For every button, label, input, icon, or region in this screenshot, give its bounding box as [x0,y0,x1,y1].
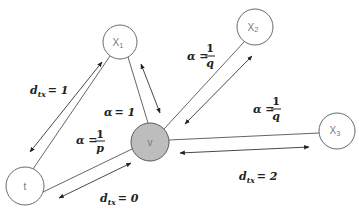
label-alpha-1: α= 1 [104,106,135,119]
label-alpha-1-over-p: α = 1 p [76,128,105,155]
label-d-tx-0: dtx= 0 [100,192,139,207]
arrow-v-x3 [180,147,309,153]
arrow-x1-v [141,64,160,113]
node-x2: X2 [237,9,273,45]
node-x1: X1 [103,25,137,59]
svg-text:q: q [206,57,214,70]
svg-text:q: q [272,110,280,123]
node-v-label: v [148,137,153,148]
label-alpha-1-over-q-x3: α = 1 q [253,95,281,123]
svg-text:p: p [96,142,104,155]
svg-text:dtx= 2: dtx= 2 [239,170,278,185]
node2vec-walk-diagram: t v X1 X2 X3 dtx= 1 α= 1 α = 1 p dtx= 0 … [0,0,359,214]
svg-text:1: 1 [96,128,104,141]
edge-t-v [43,149,132,192]
label-d-tx-1: dtx= 1 [30,84,68,99]
label-d-tx-2: dtx= 2 [239,170,278,185]
svg-text:dtx= 1: dtx= 1 [30,84,68,99]
label-alpha-1-over-q-x2: α = 1 q [187,42,215,70]
svg-text:α= 1: α= 1 [104,106,135,119]
node-t: t [6,167,44,205]
arrow-v-x2 [185,56,252,124]
svg-text:dtx= 0: dtx= 0 [100,192,139,207]
node-x3: X3 [319,113,355,149]
edge-v-x3 [169,133,319,140]
node-v: v [131,123,169,161]
svg-text:α =: α = [76,134,98,147]
svg-text:1: 1 [206,42,214,55]
node-t-label: t [24,181,27,192]
svg-text:1: 1 [272,95,280,108]
